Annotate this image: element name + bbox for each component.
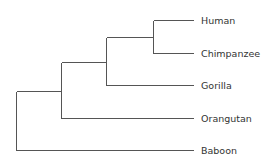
leaf-label-human: Human (201, 15, 235, 26)
tree-branches (17, 21, 195, 151)
leaf-label-baboon: Baboon (201, 145, 237, 156)
phylogenetic-tree: Human Chimpanzee Gorilla Orangutan Baboo… (0, 0, 274, 164)
leaf-label-chimpanzee: Chimpanzee (201, 48, 260, 59)
leaf-label-gorilla: Gorilla (201, 80, 232, 91)
leaf-label-orangutan: Orangutan (201, 113, 252, 124)
leaf-labels: Human Chimpanzee Gorilla Orangutan Baboo… (201, 15, 260, 156)
